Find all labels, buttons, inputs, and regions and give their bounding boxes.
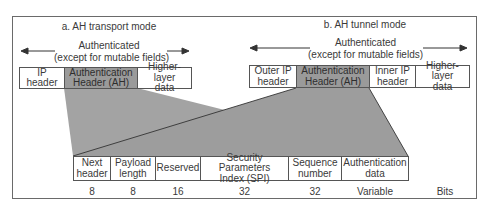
ah-field-authentication-data: Authentication data — [341, 156, 409, 181]
ah-field-sequence-number: Sequence number — [288, 156, 342, 181]
bits-next-header: 8 — [73, 186, 111, 197]
tunnel-outer-ip-header: Outer IP header — [249, 65, 297, 88]
ah-field-payload-length: Payload length — [110, 156, 156, 181]
transport-ah-header: Authentication Header (AH) — [64, 67, 138, 89]
bits-reserved: 16 — [155, 186, 201, 197]
tunnel-auth-label: Authenticated — [308, 37, 423, 48]
transport-ip-header: IP header — [19, 67, 65, 89]
transport-higher-layer-data: Higher-layer data — [137, 67, 192, 89]
tunnel-mode-title: b. AH tunnel mode — [310, 19, 420, 30]
tunnel-higher-layer-data: Higher-layer data — [415, 65, 470, 88]
tunnel-ah-header: Authentication Header (AH) — [296, 65, 370, 88]
ah-field-spi: Security Parameters Index (SPI) — [200, 156, 289, 181]
bits-authentication-data: Variable — [341, 186, 409, 197]
bits-payload-length: 8 — [110, 186, 156, 197]
bits-sequence-number: 32 — [288, 186, 342, 197]
bits-unit-label: Bits — [430, 186, 460, 197]
tunnel-auth-sublabel: (except for mutable fields) — [308, 49, 423, 60]
bits-spi: 32 — [200, 186, 289, 197]
transport-mode-title: a. AH transport mode — [54, 21, 164, 32]
tunnel-inner-ip-header: Inner IP header — [369, 65, 416, 88]
ah-field-reserved: Reserved — [155, 156, 201, 181]
transport-auth-label: Authenticated — [54, 40, 164, 51]
ah-field-next-header: Next header — [73, 156, 111, 181]
